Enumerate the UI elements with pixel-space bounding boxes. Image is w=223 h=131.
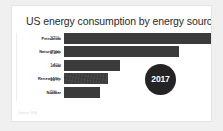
bar-track: [64, 87, 211, 98]
bar-value-label: 11%: [50, 76, 60, 82]
bar-fill: [64, 87, 100, 98]
page-background: US energy consumption by energy source P…: [0, 0, 223, 131]
table-row[interactable]: Renewables 11%: [12, 73, 212, 86]
bar-value-label: 29%: [50, 49, 60, 55]
source-note: Source: EIA: [18, 111, 37, 115]
bar-value-label: 9%: [50, 89, 57, 95]
bar-value-label: 14%: [50, 62, 60, 68]
bar-fill: [64, 46, 179, 57]
page-title: US energy consumption by energy source: [26, 15, 212, 27]
bar-track: [64, 46, 211, 57]
bar-track: [64, 33, 211, 44]
bar-track: [64, 73, 211, 84]
year-badge: 2017: [145, 64, 176, 95]
bar-fill: [64, 33, 211, 44]
bar-fill: [64, 73, 108, 84]
bar-fill: [64, 60, 120, 71]
table-row[interactable]: Petroleum 37%: [12, 33, 212, 46]
bar-value-label: 37%: [50, 35, 60, 41]
year-badge-label: 2017: [151, 75, 169, 84]
table-row[interactable]: Coal 14%: [12, 60, 212, 73]
chart-card: US energy consumption by energy source P…: [11, 5, 212, 122]
table-row[interactable]: Nuclear 9%: [12, 87, 212, 100]
table-row[interactable]: Natural gas 29%: [12, 46, 212, 59]
chart-plot-area: Petroleum 37% Natural gas 29% Coal 14%: [12, 33, 212, 100]
bar-track: [64, 60, 211, 71]
